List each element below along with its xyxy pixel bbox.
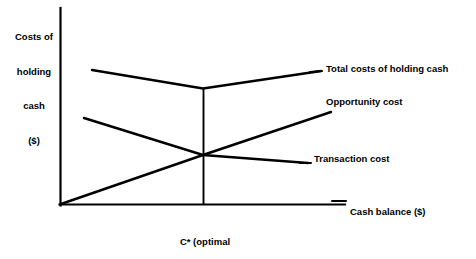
y-axis-title: Costs of holding cash ($) [6, 8, 62, 169]
optimal-balance-line-1: C* (optimal [153, 236, 257, 248]
series-label-opportunity-cost: Opportunity cost [326, 96, 403, 108]
optimal-balance-annotation: C* (optimal balance of $400,000) [153, 213, 257, 259]
series-label-transaction-cost: Transaction cost [314, 153, 390, 165]
total-cost-curve [92, 70, 321, 89]
cash-management-cost-chart: Costs of holding cash ($) Total costs of… [0, 0, 476, 259]
x-axis-title: Cash balance ($) [350, 206, 426, 218]
total-cost-leader-line [310, 71, 322, 72]
series-label-total-costs: Total costs of holding cash [326, 63, 448, 75]
y-axis-title-line-3: cash [6, 100, 62, 112]
y-axis-title-line-2: holding [6, 66, 62, 78]
y-axis-title-line-4: ($) [6, 135, 62, 147]
opportunity-cost-line [61, 112, 331, 204]
y-axis-title-line-1: Costs of [6, 31, 62, 43]
